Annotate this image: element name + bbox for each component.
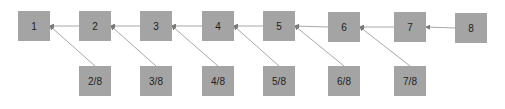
node-5: 5 <box>263 11 295 41</box>
edge-arrow <box>426 27 455 28</box>
node-label: 1 <box>31 21 37 32</box>
node-label: 4/8 <box>211 76 225 87</box>
node-4: 4 <box>202 11 234 41</box>
node-label: 8 <box>468 23 474 34</box>
node-7: 7 <box>394 12 426 42</box>
node-label: 5/8 <box>272 76 286 87</box>
fraction-node-5-8: 5/8 <box>263 66 295 96</box>
node-label: 2 <box>92 21 98 32</box>
node-label: 5 <box>276 21 282 32</box>
node-label: 6/8 <box>337 76 351 87</box>
node-label: 4 <box>215 21 221 32</box>
fraction-node-4-8: 4/8 <box>202 66 234 96</box>
node-label: 3/8 <box>149 76 163 87</box>
fraction-node-3-8: 3/8 <box>140 66 172 96</box>
edge-arrow <box>295 26 328 27</box>
fraction-node-2-8: 2/8 <box>79 66 111 96</box>
diagram-canvas: 1 2 3 4 5 6 7 8 2/8 3/8 4/8 5/8 6/8 7/8 <box>0 0 505 109</box>
node-3: 3 <box>140 11 172 41</box>
node-label: 7/8 <box>403 76 417 87</box>
node-1: 1 <box>18 11 50 41</box>
node-6: 6 <box>328 12 360 42</box>
fraction-node-6-8: 6/8 <box>328 66 360 96</box>
node-2: 2 <box>79 11 111 41</box>
node-label: 7 <box>407 22 413 33</box>
node-label: 3 <box>153 21 159 32</box>
fraction-node-7-8: 7/8 <box>394 66 426 96</box>
node-label: 2/8 <box>88 76 102 87</box>
edges-layer <box>0 0 505 109</box>
node-8: 8 <box>455 13 487 43</box>
node-label: 6 <box>341 22 347 33</box>
